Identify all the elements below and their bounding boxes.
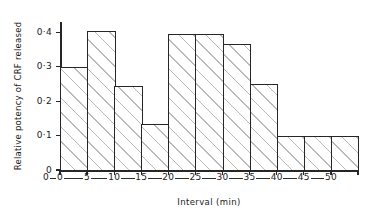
bar [250, 84, 278, 171]
bar [277, 136, 305, 172]
y-tick-label: 0·2 [26, 96, 52, 106]
y-tick-mark [56, 32, 61, 33]
x-tick-connector [64, 178, 83, 179]
x-tick-connector [91, 178, 107, 179]
bar [195, 34, 223, 171]
x-tick-connector [202, 178, 216, 179]
y-tick-label: 0·3 [26, 61, 52, 71]
y-tick-label: 0·4 [26, 27, 52, 37]
x-tick-connector [148, 178, 162, 179]
y-tick-label: 0·1 [26, 130, 52, 140]
bar [114, 86, 142, 172]
x-axis-title: Interval (min) [60, 196, 358, 208]
x-tick-connector [175, 178, 189, 179]
bar [141, 124, 169, 172]
x-tick-label: 50 [322, 171, 340, 184]
plot-area [60, 22, 358, 170]
x-tick-connector [283, 178, 297, 179]
bar [304, 136, 332, 172]
bar [87, 31, 115, 172]
bar [331, 136, 359, 172]
x-tick-connector [50, 178, 56, 179]
x-tick-connector [121, 178, 135, 179]
x-tick-labels: 005101520253035404550 [40, 171, 370, 185]
bar [60, 67, 88, 172]
x-tick-connector [311, 178, 325, 179]
y-axis-title: Relative potency of CRF released [11, 21, 25, 171]
bar [168, 34, 196, 171]
x-tick-connector [229, 178, 243, 179]
bar [223, 44, 251, 171]
chart-figure: Relative potency of CRF released 0·4 0·3… [0, 0, 377, 218]
x-tick-connector [256, 178, 270, 179]
